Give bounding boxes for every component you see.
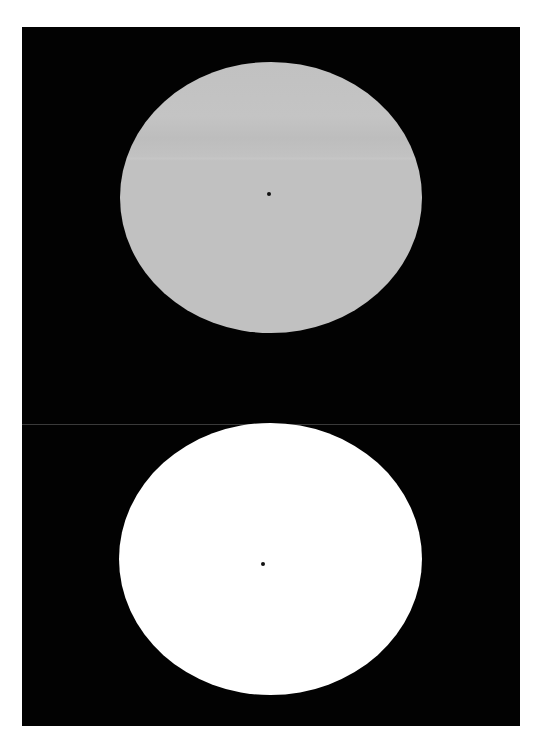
gray-ellipse-stimulus bbox=[120, 62, 422, 333]
fixation-dot-bottom bbox=[261, 562, 265, 566]
fixation-dot-top bbox=[267, 192, 271, 196]
white-ellipse-stimulus bbox=[119, 423, 422, 695]
